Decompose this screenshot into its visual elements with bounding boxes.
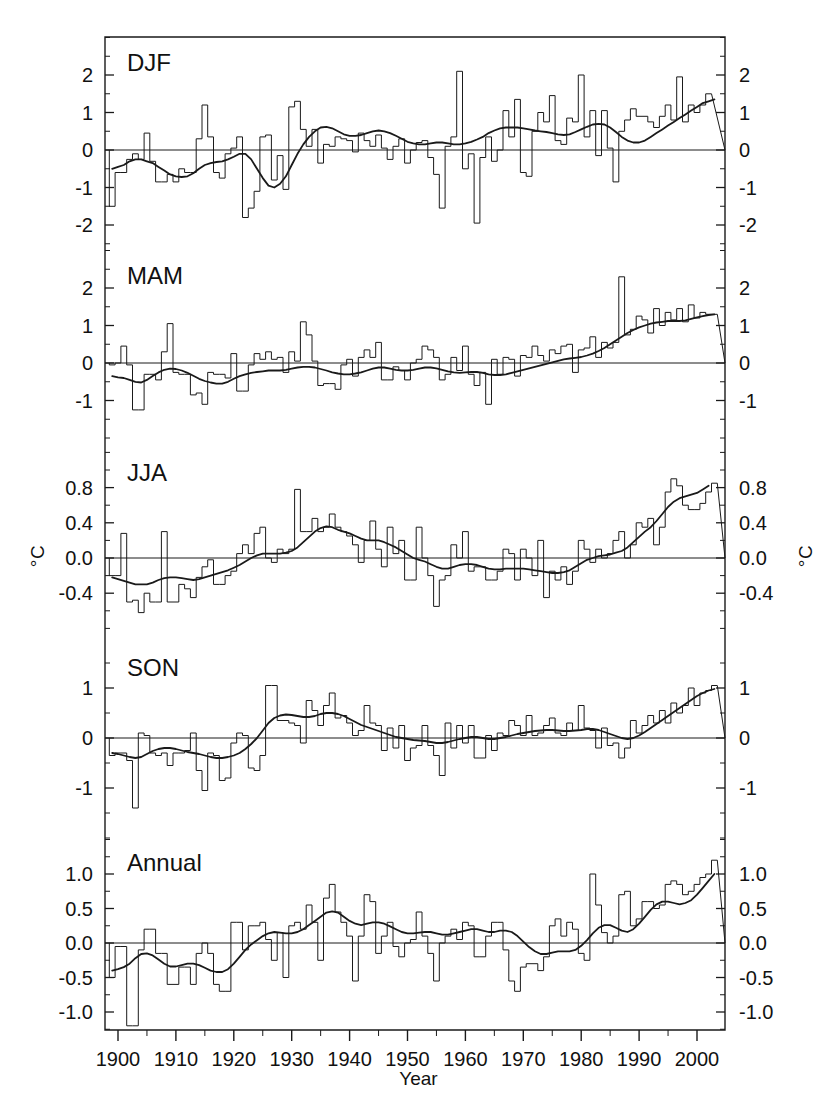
- smoothed-trend-curve: [112, 874, 714, 972]
- y-tick-label-right: 2: [739, 277, 750, 299]
- y-tick-label-left: 0: [82, 352, 93, 374]
- climate-anomaly-figure: °C °C Year -2-2-1-1001122DJF-1-1001122MA…: [0, 0, 837, 1104]
- plot-frame: [105, 37, 725, 1030]
- x-axis-label: Year: [0, 1068, 837, 1090]
- y-tick-label-left: 2: [82, 64, 93, 86]
- x-tick-label: 1970: [501, 1048, 546, 1070]
- y-tick-label-right: 1: [739, 315, 750, 337]
- y-tick-label-left: -2: [75, 214, 93, 236]
- x-tick-label: 1980: [559, 1048, 604, 1070]
- y-tick-label-right: 0.0: [739, 547, 767, 569]
- x-tick-label: 1900: [96, 1048, 141, 1070]
- y-tick-label-left: 0: [82, 727, 93, 749]
- y-tick-label-left: -1: [75, 177, 93, 199]
- panel-title: DJF: [127, 49, 171, 76]
- y-axis-unit-right: °C: [795, 536, 817, 576]
- smoothed-trend-curve: [112, 314, 714, 383]
- annual-step-series: [109, 277, 725, 410]
- y-tick-label-left: -1: [75, 390, 93, 412]
- y-tick-label-right: -0.5: [739, 967, 773, 989]
- y-tick-label-left: -1: [75, 777, 93, 799]
- y-tick-label-left: 0.5: [65, 898, 93, 920]
- y-tick-label-left: 1.0: [65, 863, 93, 885]
- x-axis: 1900191019201930194019501960197019801990…: [96, 1030, 720, 1070]
- x-tick-label: 1990: [617, 1048, 662, 1070]
- y-tick-label-right: 1: [739, 102, 750, 124]
- annual-step-series: [109, 479, 725, 613]
- y-tick-label-right: 2: [739, 64, 750, 86]
- seasonal-anomaly-plot: -2-2-1-1001122DJF-1-1001122MAM-0.4-0.40.…: [0, 0, 837, 1104]
- y-tick-label-left: 0.0: [65, 932, 93, 954]
- panel-djf: -2-2-1-1001122DJF: [75, 38, 757, 244]
- y-tick-label-right: -2: [739, 214, 757, 236]
- y-tick-label-left: 0: [82, 139, 93, 161]
- y-tick-label-right: 1: [739, 677, 750, 699]
- annual-step-series: [109, 686, 725, 809]
- y-tick-label-right: 0.8: [739, 477, 767, 499]
- y-tick-label-right: 0: [739, 139, 750, 161]
- panel-title: JJA: [127, 459, 167, 486]
- y-tick-label-right: -1.0: [739, 1001, 773, 1023]
- panel-title: MAM: [127, 262, 183, 289]
- y-tick-label-right: -1: [739, 777, 757, 799]
- x-tick-label: 1910: [154, 1048, 199, 1070]
- x-tick-label: 1960: [443, 1048, 488, 1070]
- panel-son: -1-10011SON: [75, 654, 757, 838]
- y-tick-label-left: 2: [82, 277, 93, 299]
- y-tick-label-left: -0.4: [59, 582, 93, 604]
- y-tick-label-right: 0.0: [739, 932, 767, 954]
- x-tick-label: 1920: [212, 1048, 257, 1070]
- y-tick-label-right: -1: [739, 177, 757, 199]
- x-tick-label: 2000: [675, 1048, 720, 1070]
- y-tick-label-left: -1.0: [59, 1001, 93, 1023]
- y-tick-label-left: 0.4: [65, 512, 93, 534]
- y-tick-label-left: 0.8: [65, 477, 93, 499]
- y-tick-label-left: 1: [82, 677, 93, 699]
- y-tick-label-right: 0.5: [739, 898, 767, 920]
- y-tick-label-right: 1.0: [739, 863, 767, 885]
- x-tick-label: 1930: [269, 1048, 314, 1070]
- smoothed-trend-curve: [112, 99, 714, 187]
- y-tick-label-right: -1: [739, 390, 757, 412]
- panel-jja: -0.4-0.40.00.00.40.40.80.8JJA: [59, 452, 774, 628]
- y-tick-label-right: 0: [739, 352, 750, 374]
- panel-title: SON: [127, 654, 179, 681]
- y-tick-label-right: -0.4: [739, 582, 773, 604]
- panel-title: Annual: [127, 849, 202, 876]
- y-tick-label-left: 0.0: [65, 547, 93, 569]
- y-tick-label-right: 0: [739, 727, 750, 749]
- panel-mam: -1-1001122MAM: [75, 251, 757, 439]
- y-axis-unit-left: °C: [27, 536, 49, 576]
- annual-step-series: [109, 71, 725, 223]
- x-tick-label: 1950: [385, 1048, 430, 1070]
- x-tick-label: 1940: [327, 1048, 372, 1070]
- y-tick-label-left: 1: [82, 102, 93, 124]
- y-tick-label-left: -0.5: [59, 967, 93, 989]
- y-tick-label-left: 1: [82, 315, 93, 337]
- panel-annual: -1.0-1.0-0.5-0.50.00.00.50.51.01.0Annual: [59, 840, 774, 1030]
- y-tick-label-right: 0.4: [739, 512, 767, 534]
